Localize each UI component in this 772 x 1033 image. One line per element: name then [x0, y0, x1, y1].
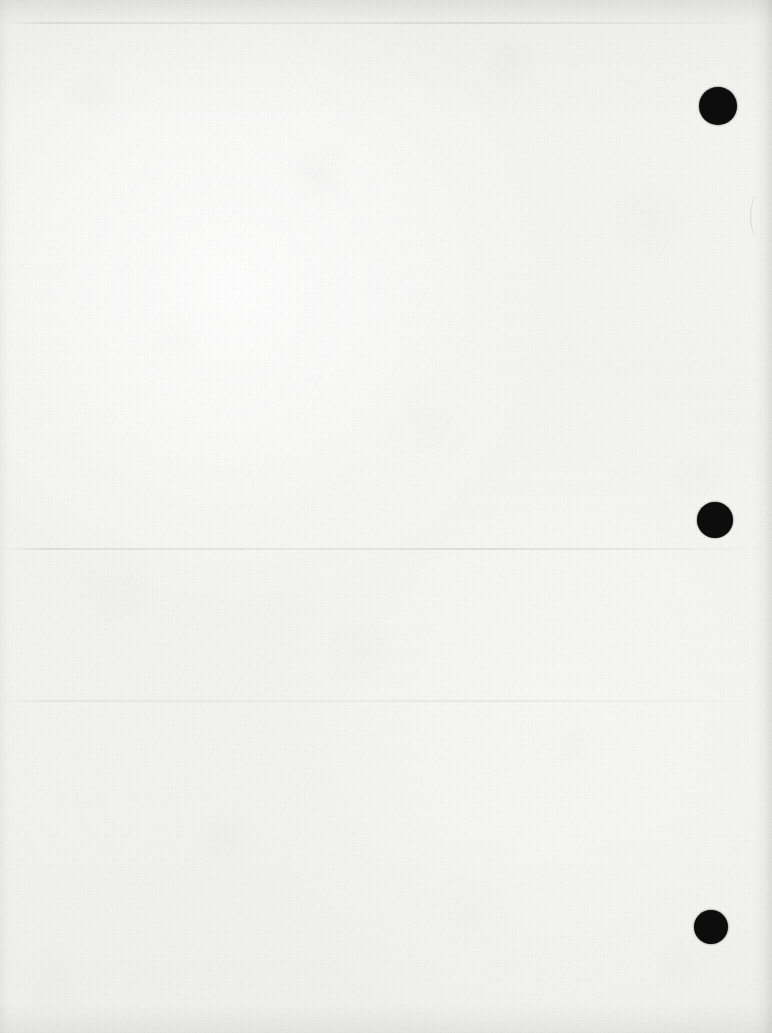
crease-lower — [0, 700, 772, 702]
page-edge-top — [0, 0, 772, 24]
scanned-page — [0, 0, 772, 1033]
registration-mark-top — [699, 87, 737, 125]
page-edge-left — [0, 0, 10, 1033]
crease-middle — [0, 548, 772, 550]
margin-scuff-mark — [750, 196, 765, 236]
page-edge-bottom — [0, 1003, 772, 1033]
registration-mark-bottom — [694, 910, 728, 944]
page-edge-right — [754, 0, 772, 1033]
crease-top — [0, 22, 772, 24]
registration-mark-middle — [697, 502, 733, 538]
paper-fiber-texture — [0, 0, 772, 1033]
paper-mottle-texture — [0, 0, 772, 1033]
